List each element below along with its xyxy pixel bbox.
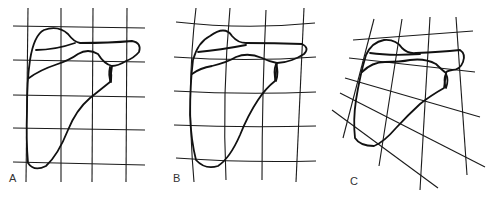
panel-label-b: B xyxy=(173,172,180,184)
figure-canvas xyxy=(0,0,490,200)
panel-label-a: A xyxy=(9,172,16,184)
panel-b xyxy=(174,8,316,182)
panel-label-c: C xyxy=(350,175,358,187)
panel-c xyxy=(332,17,485,190)
panel-c-scapula-outline xyxy=(354,40,464,146)
panel-a-grid xyxy=(13,8,145,182)
panel-a xyxy=(13,8,145,182)
panel-b-scapula-outline xyxy=(190,31,307,168)
panel-a-scapula-outline xyxy=(27,28,140,168)
